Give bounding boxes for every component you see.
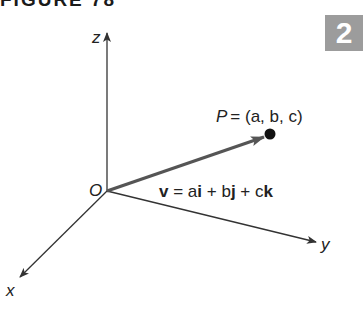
vector-diagram: z y x O P= (a, b, c) v = ai + bj + ck: [0, 0, 363, 324]
point-p-coords: = (a, b, c): [230, 107, 302, 126]
y-axis-label: y: [320, 235, 331, 254]
vector-eq-a: = a: [168, 182, 197, 201]
vector-eq-b: + b: [202, 182, 231, 201]
vector-eq-c: + c: [236, 182, 264, 201]
x-axis-label: x: [5, 281, 15, 300]
z-axis-label: z: [91, 28, 101, 47]
x-axis: [20, 191, 107, 277]
point-p-name: P: [216, 107, 228, 126]
point-p-label: P= (a, b, c): [216, 107, 303, 126]
point-p-dot: [265, 129, 276, 140]
origin-label: O: [89, 181, 102, 200]
unit-k: k: [264, 182, 274, 201]
vector-equation: v = ai + bj + ck: [159, 182, 274, 201]
